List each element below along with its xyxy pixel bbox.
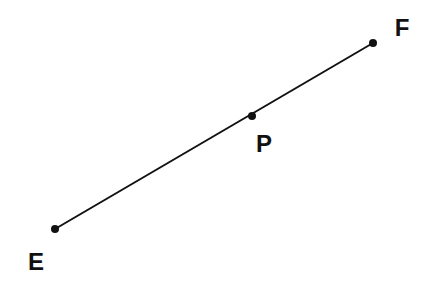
diagram-canvas: E P F <box>0 0 430 291</box>
point-p <box>248 112 256 120</box>
label-e: E <box>28 248 44 275</box>
label-f: F <box>395 14 410 41</box>
label-p: P <box>256 130 272 157</box>
point-f <box>369 39 377 47</box>
segment-ef <box>55 43 373 229</box>
point-e <box>51 225 59 233</box>
